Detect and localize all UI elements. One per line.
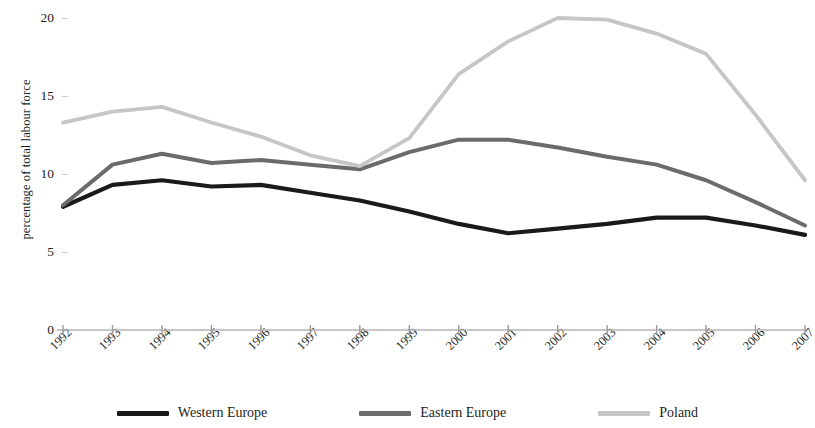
legend-swatch-western-europe	[117, 411, 169, 416]
legend-label-poland: Poland	[659, 405, 698, 421]
series-line-western-europe	[63, 180, 805, 235]
legend-item-poland[interactable]: Poland	[598, 405, 698, 421]
legend-item-eastern-europe[interactable]: Eastern Europe	[359, 405, 506, 421]
legend-swatch-eastern-europe	[359, 411, 411, 416]
legend-swatch-poland	[598, 411, 650, 416]
series-lines	[63, 18, 805, 235]
axis-lines	[57, 325, 805, 335]
legend-label-western-europe: Western Europe	[178, 405, 267, 421]
chart-legend: Western Europe Eastern Europe Poland	[0, 398, 815, 428]
legend-item-western-europe[interactable]: Western Europe	[117, 405, 267, 421]
plot-area	[0, 0, 815, 428]
legend-label-eastern-europe: Eastern Europe	[420, 405, 506, 421]
line-chart: percentage of total labour force 2015105…	[0, 0, 815, 428]
